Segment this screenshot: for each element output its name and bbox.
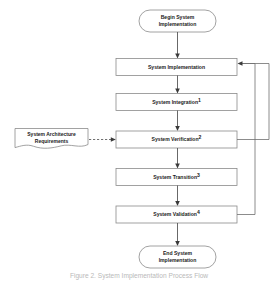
connector-implementation-to-integration	[175, 76, 180, 94]
flowchart-canvas: Begin System Implementation System Imple…	[0, 0, 278, 281]
begin-terminator-label-line1: Begin System	[161, 14, 195, 20]
connector-verification-to-transition	[175, 148, 180, 169]
arrow-head-icon	[175, 201, 180, 206]
arrow-head-icon	[175, 164, 180, 169]
system-verification-label: System Verification2	[152, 134, 202, 142]
node-system-architecture-requirements: System Architecture Requirements	[15, 129, 88, 149]
connector-validation-to-end	[175, 223, 180, 246]
node-system-implementation: System Implementation	[116, 59, 237, 76]
system-integration-label-text: System Integration	[152, 99, 198, 105]
node-system-validation: System Validation4	[116, 206, 237, 223]
node-system-verification: System Verification2	[116, 131, 237, 148]
arrow-head-icon	[175, 241, 180, 246]
feedback-loop-validation-to-implementation	[237, 61, 255, 214]
system-validation-label: System Validation4	[153, 209, 200, 217]
requirements-document-label-line1: System Architecture	[27, 131, 76, 137]
node-system-transition: System Transition3	[116, 169, 237, 186]
feedback-loop-verification-to-implementation	[237, 64, 269, 140]
node-begin-system-implementation: Begin System Implementation	[139, 10, 216, 32]
connector-integration-to-verification	[175, 111, 180, 132]
system-transition-label-text: System Transition	[153, 174, 197, 180]
system-verification-label-text: System Verification	[152, 136, 199, 142]
end-terminator-label-line1: End System	[163, 250, 193, 256]
connector-begin-to-implementation	[175, 32, 180, 59]
system-integration-superscript: 1	[198, 97, 201, 103]
connector-requirements-to-verification	[89, 137, 116, 142]
system-verification-superscript: 2	[199, 134, 202, 140]
arrow-head-icon	[238, 61, 243, 66]
begin-terminator-label-line2: Implementation	[159, 21, 197, 27]
system-implementation-label: System Implementation	[148, 64, 205, 70]
arrow-head-icon	[175, 54, 180, 59]
end-terminator-label-line2: Implementation	[159, 257, 197, 263]
system-transition-superscript: 3	[197, 172, 200, 178]
arrow-head-icon	[111, 137, 116, 142]
node-system-integration: System Integration1	[116, 94, 237, 111]
flowchart-diagram: Begin System Implementation System Imple…	[0, 0, 278, 281]
node-end-system-implementation: End System Implementation	[139, 246, 216, 268]
figure-caption: Figure 2. System Implementation Process …	[70, 272, 208, 280]
requirements-document-label-line2: Requirements	[35, 138, 69, 144]
system-validation-label-text: System Validation	[153, 211, 197, 217]
system-transition-label: System Transition3	[153, 172, 200, 180]
system-validation-superscript: 4	[197, 209, 200, 215]
system-integration-label: System Integration1	[152, 97, 201, 105]
connector-transition-to-validation	[175, 186, 180, 207]
arrow-head-icon	[175, 89, 180, 94]
arrow-head-icon	[175, 126, 180, 131]
